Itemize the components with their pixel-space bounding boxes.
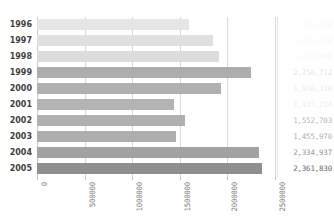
x-tick-label-500000: 500000 xyxy=(88,182,97,207)
value-column-divider xyxy=(277,17,278,177)
bar-2000[interactable] xyxy=(37,83,221,94)
bar-row xyxy=(37,145,275,161)
bar-1999[interactable] xyxy=(37,67,251,78)
x-tick-label-0: 0 xyxy=(40,182,49,186)
bar-row xyxy=(37,113,275,129)
plot-area xyxy=(37,17,275,177)
value-label-1996: 1,595,000 xyxy=(293,17,332,33)
category-label-1996: 1996 xyxy=(10,17,32,33)
bar-row xyxy=(37,161,275,177)
bar-row xyxy=(37,17,275,33)
value-label-2005: 2,361,830 xyxy=(293,161,332,177)
value-label-2001: 1,437,214 xyxy=(293,97,332,113)
bar-1998[interactable] xyxy=(37,51,219,62)
value-label-2000: 1,930,318 xyxy=(293,81,332,97)
category-label-2003: 2003 xyxy=(10,129,32,145)
bar-row xyxy=(37,129,275,145)
bar-chart: 1996199719981999200020012002200320042005… xyxy=(0,0,334,224)
bar-row xyxy=(37,65,275,81)
category-label-2000: 2000 xyxy=(10,81,32,97)
value-labels-column: 1,595,0001,845,0001,910,0002,250,7121,93… xyxy=(281,17,334,177)
value-label-1999: 2,250,712 xyxy=(293,65,332,81)
category-label-2002: 2002 xyxy=(10,113,32,129)
bar-row xyxy=(37,33,275,49)
bar-2001[interactable] xyxy=(37,99,174,110)
category-label-1997: 1997 xyxy=(10,33,32,49)
category-label-1999: 1999 xyxy=(10,65,32,81)
category-label-2001: 2001 xyxy=(10,97,32,113)
bar-2004[interactable] xyxy=(37,147,259,158)
value-label-1997: 1,845,000 xyxy=(293,33,332,49)
bar-row xyxy=(37,97,275,113)
bar-row xyxy=(37,81,275,97)
bar-row xyxy=(37,49,275,65)
bar-series xyxy=(37,17,275,177)
bar-1997[interactable] xyxy=(37,35,213,46)
x-tick-mark-1000000 xyxy=(132,177,133,180)
x-tick-label-1000000: 1000000 xyxy=(135,182,144,212)
x-tick-mark-2500000 xyxy=(275,177,276,180)
x-tick-label-1500000: 1500000 xyxy=(183,182,192,212)
x-tick-mark-500000 xyxy=(85,177,86,180)
value-label-2004: 2,334,937 xyxy=(293,145,332,161)
gridline-2500000 xyxy=(275,17,276,177)
bar-2005[interactable] xyxy=(37,163,262,174)
x-tick-mark-2000000 xyxy=(227,177,228,180)
category-label-2005: 2005 xyxy=(10,161,32,177)
value-label-1998: 1,910,000 xyxy=(293,49,332,65)
category-label-1998: 1998 xyxy=(10,49,32,65)
value-label-2003: 1,455,970 xyxy=(293,129,332,145)
x-tick-mark-1500000 xyxy=(180,177,181,180)
value-label-2002: 1,552,703 xyxy=(293,113,332,129)
bar-2002[interactable] xyxy=(37,115,185,126)
category-label-2004: 2004 xyxy=(10,145,32,161)
x-tick-mark-0 xyxy=(37,177,38,180)
x-tick-label-2000000: 2000000 xyxy=(230,182,239,212)
x-axis: 05000001000000150000020000002500000 xyxy=(37,177,275,224)
x-tick-label-2500000: 2500000 xyxy=(278,182,287,212)
bar-2003[interactable] xyxy=(37,131,176,142)
category-axis-labels: 1996199719981999200020012002200320042005 xyxy=(0,17,35,177)
bar-1996[interactable] xyxy=(37,19,189,30)
